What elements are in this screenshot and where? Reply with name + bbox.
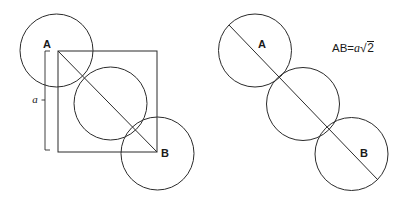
right-label-a: A <box>258 38 266 50</box>
left-figure-group: A B a <box>20 14 194 190</box>
side-length-label: a <box>32 93 38 105</box>
formula-radical: √2 <box>360 41 374 55</box>
side-length-bracket <box>45 51 50 150</box>
right-circle-middle <box>267 68 340 141</box>
formula-radicand: 2 <box>367 41 375 55</box>
radical-symbol-icon: √ <box>360 41 367 55</box>
geometry-figure-svg: A B a A B <box>0 0 407 200</box>
formula-ab-equals-a-root-two: AB=a√2 <box>332 41 374 56</box>
right-label-b: B <box>360 147 368 159</box>
diagram-canvas: A B a A B AB=a√2 <box>0 0 407 200</box>
square-diagonal-ab <box>58 51 157 152</box>
formula-lhs: AB <box>332 42 347 54</box>
left-label-a: A <box>43 38 51 50</box>
left-label-b: B <box>161 147 169 159</box>
